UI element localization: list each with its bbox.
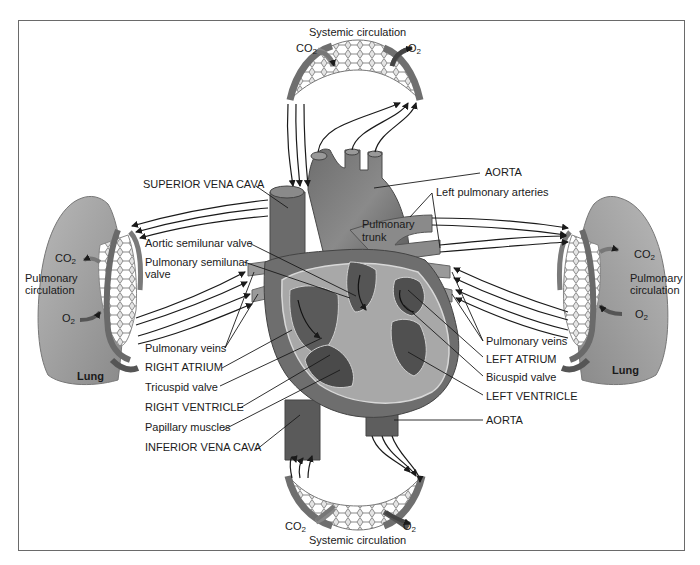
co2-text: CO	[634, 248, 651, 260]
label-pulmonary-trunk-line1: Pulmonary	[362, 218, 415, 231]
label-co2-right-lung: CO2	[634, 248, 655, 261]
label-lung-right: Lung	[612, 364, 639, 377]
label-pulmonary-veins-right: Pulmonary veins	[486, 335, 567, 348]
label-right-ventricle: RIGHT VENTRICLE	[145, 401, 244, 414]
label-pulmonary-trunk-line2: trunk	[362, 231, 386, 244]
label-bicuspid-valve: Bicuspid valve	[486, 371, 556, 384]
subscript-2: 2	[417, 47, 421, 56]
label-systemic-circulation-top: Systemic circulation	[309, 26, 406, 39]
subscript-2: 2	[644, 313, 648, 322]
label-co2-left-lung: CO2	[55, 252, 76, 265]
co2-text: CO	[55, 252, 72, 264]
label-pulmonary-circulation-left-line2: circulation	[25, 284, 75, 297]
label-lung-left: Lung	[77, 370, 104, 383]
label-co2-top: CO2	[296, 42, 317, 55]
subscript-2: 2	[71, 317, 75, 326]
heart	[248, 149, 459, 460]
subscript-2: 2	[302, 525, 306, 534]
co2-text: CO	[285, 520, 302, 532]
o2-text: O	[635, 308, 644, 320]
subscript-2: 2	[412, 525, 416, 534]
label-pulmonary-circulation-right-line2: circulation	[630, 284, 680, 297]
subscript-2: 2	[72, 257, 76, 266]
label-papillary-muscles: Papillary muscles	[145, 421, 231, 434]
o2-text: O	[403, 520, 412, 532]
label-aorta-top: AORTA	[485, 166, 522, 179]
label-right-atrium: RIGHT ATRIUM	[145, 361, 223, 374]
subscript-2: 2	[313, 47, 317, 56]
co2-text: CO	[296, 42, 313, 54]
diagram-artwork	[0, 0, 700, 565]
label-tricuspid-valve: Tricuspid valve	[145, 381, 218, 394]
label-o2-left-lung: O2	[62, 312, 75, 325]
label-pulmonary-veins-left: Pulmonary veins	[145, 342, 226, 355]
label-aorta-bottom: AORTA	[486, 414, 523, 427]
label-co2-bottom: CO2	[285, 520, 306, 533]
o2-text: O	[408, 42, 417, 54]
label-inferior-vena-cava: INFERIOR VENA CAVA	[145, 441, 261, 454]
label-superior-vena-cava: SUPERIOR VENA CAVA	[143, 178, 264, 191]
subscript-2: 2	[651, 253, 655, 262]
label-pulmonary-semilunar-valve-line2: valve	[145, 268, 171, 281]
label-left-ventricle: LEFT VENTRICLE	[486, 390, 578, 403]
label-o2-right-lung: O2	[635, 308, 648, 321]
heart-circulation-diagram: Systemic circulation CO2 O2 SUPERIOR VEN…	[0, 0, 700, 565]
label-left-pulmonary-arteries: Left pulmonary arteries	[436, 186, 549, 199]
o2-text: O	[62, 312, 71, 324]
label-systemic-circulation-bottom: Systemic circulation	[309, 534, 406, 547]
label-aortic-semilunar-valve: Aortic semilunar valve	[145, 237, 253, 250]
label-o2-bottom: O2	[403, 520, 416, 533]
label-left-atrium: LEFT ATRIUM	[486, 353, 557, 366]
label-o2-top: O2	[408, 42, 421, 55]
